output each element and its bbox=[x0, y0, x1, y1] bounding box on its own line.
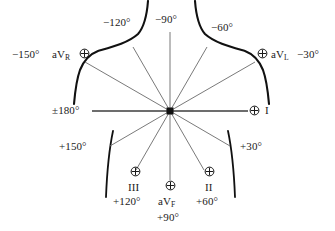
angle-label-minus90: −90° bbox=[155, 14, 177, 25]
axis-line-minus120deg bbox=[133, 47, 170, 111]
circled-plus-icon-lead-i bbox=[249, 105, 260, 116]
lead-label-iii: III bbox=[128, 182, 139, 193]
angle-label-plus120: +120° bbox=[113, 196, 141, 207]
angle-label-minus60: −60° bbox=[211, 22, 233, 33]
axis-line-plus60deg bbox=[170, 111, 204, 170]
angle-label-plusminus180: ±180° bbox=[52, 105, 79, 116]
lead-label-avf-text: aV bbox=[158, 195, 171, 207]
circled-plus-icon-lead-ii bbox=[204, 166, 215, 177]
angle-label-plus90: +90° bbox=[157, 212, 179, 223]
lead-label-avr-text: aV bbox=[52, 48, 65, 60]
lead-label-ii: II bbox=[205, 182, 213, 193]
lead-label-avl: aVL bbox=[271, 49, 289, 60]
circled-plus-icon-avl bbox=[257, 48, 268, 59]
axis-line-minus150deg bbox=[85, 62, 170, 111]
lead-label-avf: aVF bbox=[158, 196, 175, 207]
axis-line-plus150deg bbox=[110, 111, 170, 146]
circled-plus-icon-lead-avf bbox=[165, 180, 176, 191]
axis-line-plus30deg bbox=[170, 111, 230, 146]
angle-label-plus30: +30° bbox=[240, 141, 262, 152]
left-torso-outline bbox=[106, 131, 113, 197]
circled-plus-icon-avr bbox=[79, 48, 90, 59]
center-point-marker bbox=[167, 108, 174, 115]
angle-label-plus150: +150° bbox=[59, 141, 87, 152]
axis-line-minus30deg bbox=[170, 62, 255, 111]
angle-label-minus30: −30° bbox=[297, 49, 319, 60]
right-torso-outline bbox=[228, 131, 235, 197]
angle-label-plus60: +60° bbox=[196, 196, 218, 207]
lead-label-avr: aVR bbox=[52, 49, 70, 60]
circled-plus-icon-lead-iii bbox=[130, 166, 141, 177]
lead-label-avl-text: aV bbox=[271, 48, 284, 60]
lead-label-avf-subscript: F bbox=[171, 200, 175, 209]
lead-label-avl-subscript: L bbox=[284, 53, 289, 62]
hexaxial-reference-diagram: −120° −90° −60° −150° aVR aVL −30° ±180°… bbox=[0, 0, 335, 231]
axis-line-minus60deg bbox=[170, 47, 207, 111]
angle-label-minus150: −150° bbox=[12, 49, 40, 60]
axis-line-plus120deg bbox=[136, 111, 170, 170]
angle-label-minus120: −120° bbox=[103, 17, 131, 28]
lead-label-avr-subscript: R bbox=[65, 53, 70, 62]
lead-label-i: I bbox=[265, 105, 269, 116]
